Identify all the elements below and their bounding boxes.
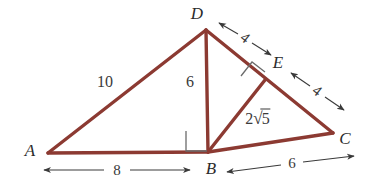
square-root-symbol: √5 [253,110,270,127]
triangle-strokes [48,30,333,153]
vertex-label-E: E [273,54,283,71]
dimension-BC-right [303,156,354,162]
dimension-DE-lower [252,43,271,55]
dimension-EC-upper [291,73,310,86]
dimension-label-AB: 8 [113,163,121,178]
vertex-label-D: D [191,5,203,22]
dimension-EC-lower [325,97,344,110]
side-label-AD: 10 [97,74,113,90]
right-angle-at-B [186,131,207,151]
vertex-label-C: C [339,130,350,147]
segment-AD [48,30,206,153]
side-label-DB: 6 [186,74,194,90]
bе-coefficient: 2 [245,110,253,127]
vertex-label-A: A [25,142,35,159]
dimension-label-BC: 6 [288,156,296,171]
segment-AB [48,152,208,153]
geometry-figure: A B C D E 10 6 2√5 8 6 4 4 [0,0,367,182]
side-label-BE: 2√5 [245,110,270,127]
segment-BC [208,133,333,152]
vertex-label-B: B [206,160,216,177]
dimension-DE-upper [219,23,238,34]
segment-DB [206,30,208,152]
dimension-BC-left [227,165,281,172]
dimension-lines [44,23,354,172]
radicand: 5 [261,109,271,127]
